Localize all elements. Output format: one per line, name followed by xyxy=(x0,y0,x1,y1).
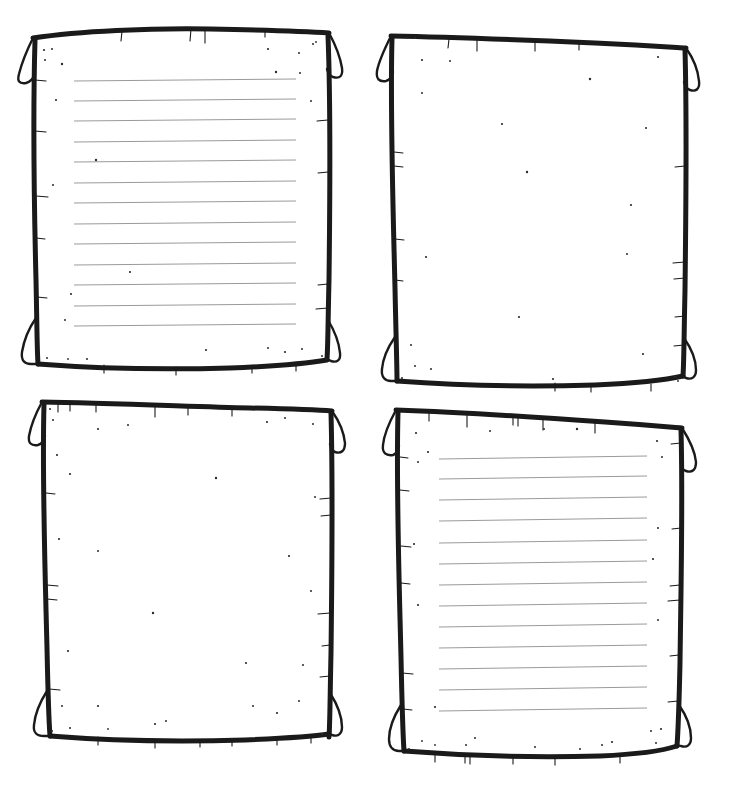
scroll-drawing-top-left xyxy=(0,0,365,393)
scroll-frame-top-right[interactable]: Blank parchment frame (top right) xyxy=(365,0,729,393)
border-right-stroke xyxy=(329,413,332,737)
border-right-stroke xyxy=(683,50,686,376)
scroll-drawing-bottom-left xyxy=(0,393,365,785)
scroll-frame-bottom-right[interactable]: Ruled parchment frame (bottom right) xyxy=(365,393,729,785)
scroll-drawing-top-right xyxy=(365,0,729,393)
scroll-frame-bottom-left[interactable]: Blank parchment frame (bottom left) xyxy=(0,393,365,785)
paper-fill xyxy=(396,410,683,752)
border-right-stroke xyxy=(327,36,330,359)
scroll-frame-top-left[interactable]: Ruled parchment frame (top left) xyxy=(0,0,365,393)
paper-fill xyxy=(390,36,687,382)
scroll-sheet: Ruled parchment frame (top left) xyxy=(0,0,729,785)
scroll-drawing-bottom-right xyxy=(365,393,729,785)
paper-fill xyxy=(42,402,332,737)
scroll-grid: Ruled parchment frame (top left) xyxy=(0,0,729,785)
